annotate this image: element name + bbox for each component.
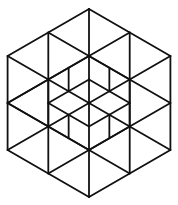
diag [130, 80, 171, 104]
diag [130, 56, 171, 80]
diag [8, 103, 49, 127]
figure-lines [8, 9, 171, 197]
diag [130, 127, 171, 151]
star-edge [48, 91, 68, 103]
star-edge [89, 115, 109, 127]
diag [130, 103, 171, 127]
star-edge [69, 115, 89, 127]
hexagon-cube-figure [0, 0, 178, 205]
star-edge [69, 80, 89, 92]
star-edge [109, 103, 129, 115]
diag [8, 80, 49, 104]
star-edge [109, 91, 129, 103]
star-edge [89, 80, 109, 92]
diag [8, 56, 49, 80]
diag [8, 127, 49, 151]
star-edge [48, 103, 68, 115]
